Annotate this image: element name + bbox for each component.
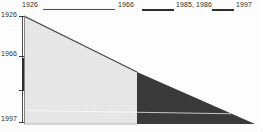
top-axis-label-1966: 1966: [118, 1, 134, 9]
top-axis-rule-1: [43, 9, 115, 10]
top-axis-label-1985-1986: 1985, 1986: [176, 1, 212, 9]
left-axis-segment-upper: [22, 16, 23, 58]
left-axis-label-1997: 1997: [1, 115, 17, 123]
top-axis-rule-3: [212, 9, 234, 11]
dark-wedge-area: [137, 72, 255, 124]
top-axis-label-1997: 1997: [236, 1, 252, 9]
light-wedge-area: [24, 16, 137, 124]
plot-area: [24, 14, 263, 132]
top-axis-label-1926: 1926: [22, 1, 38, 9]
left-axis-label-1926: 1926: [1, 11, 17, 19]
figure-container: 1926 1966 1985, 1986 1997 1926 1966 1997: [0, 0, 263, 132]
wedge-chart-svg: [24, 14, 263, 132]
left-axis-segment-lower: [22, 90, 23, 123]
top-axis-rule-2: [142, 9, 174, 11]
left-axis-label-1966: 1966: [1, 50, 17, 58]
